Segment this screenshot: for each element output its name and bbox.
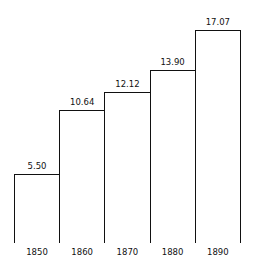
- bar-1880: [150, 70, 196, 243]
- bar-1860: [59, 110, 105, 243]
- x-tick-label: 1870: [104, 247, 150, 257]
- value-label: 12.12: [104, 79, 150, 89]
- value-label: 5.50: [14, 161, 60, 171]
- bar-1850: [14, 174, 60, 243]
- value-label: 13.90: [150, 57, 196, 67]
- x-tick-label: 1880: [150, 247, 196, 257]
- value-label: 17.07: [195, 17, 241, 27]
- x-tick-label: 1850: [14, 247, 60, 257]
- x-tick-label: 1890: [195, 247, 241, 257]
- value-label: 10.64: [59, 97, 105, 107]
- bar-1890: [195, 30, 241, 243]
- bar-chart: 5.50185010.64186012.12187013.90188017.07…: [0, 0, 253, 273]
- x-tick-label: 1860: [59, 247, 105, 257]
- bar-1870: [104, 92, 150, 243]
